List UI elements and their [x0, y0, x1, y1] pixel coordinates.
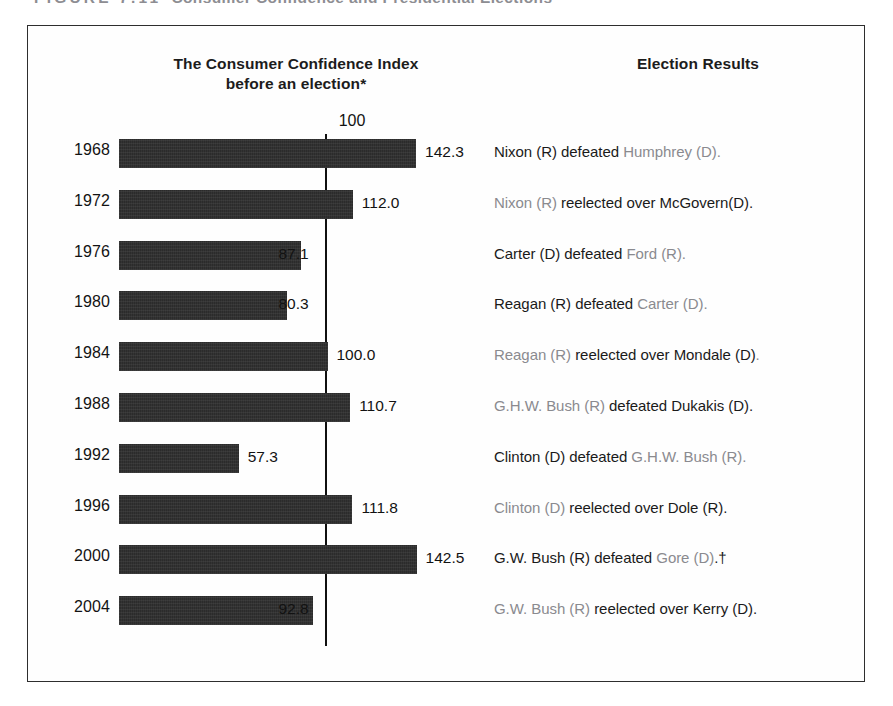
year-label: 1988 — [44, 395, 110, 413]
bar-value-label: 100.0 — [337, 346, 376, 364]
bar-value-label: 142.3 — [425, 143, 464, 161]
election-result-segment: Carter (D) defeated — [494, 245, 626, 262]
election-result-segment: G.H.W. Bush (R) — [494, 397, 609, 414]
election-result-text: Clinton (D) reelected over Dole (R). — [494, 498, 862, 517]
value-bar — [119, 139, 416, 168]
election-result-segment: .† — [714, 549, 726, 566]
value-bar — [119, 495, 352, 524]
year-label: 1972 — [44, 192, 110, 210]
chart-row: 1972112.0Nixon (R) reelected over McGove… — [28, 180, 866, 231]
election-result-segment: Gore (D) — [656, 549, 714, 566]
bar-value-label: 80.3 — [279, 295, 309, 313]
value-bar — [119, 444, 239, 473]
chart-row: 200492.8G.W. Bush (R) reelected over Ker… — [28, 586, 866, 637]
chart-row: 1984100.0Reagan (R) reelected over Monda… — [28, 332, 866, 383]
results-column-header: Election Results — [548, 54, 848, 74]
chart-row: 198080.3Reagan (R) defeated Carter (D). — [28, 281, 866, 332]
election-result-segment: G.W. Bush (R) defeated — [494, 549, 656, 566]
chart-column-header: The Consumer Confidence Index before an … — [131, 54, 461, 94]
value-bar — [119, 342, 328, 371]
chart-column-header-line2: before an election* — [131, 74, 461, 94]
election-result-text: Clinton (D) defeated G.H.W. Bush (R). — [494, 447, 862, 466]
election-result-segment: Reagan (R) defeated — [494, 295, 637, 312]
chart-row: 199257.3Clinton (D) defeated G.H.W. Bush… — [28, 434, 866, 485]
figure-frame: The Consumer Confidence Index before an … — [27, 25, 865, 682]
value-bar — [119, 291, 287, 320]
year-label: 1980 — [44, 293, 110, 311]
election-result-segment: reelected over Mondale (D) — [575, 346, 755, 363]
election-result-segment: G.W. Bush (R) — [494, 600, 594, 617]
value-bar — [119, 241, 301, 270]
year-label: 1968 — [44, 141, 110, 159]
chart-row: 1988110.7G.H.W. Bush (R) defeated Dukaki… — [28, 383, 866, 434]
figure-caption-title: Consumer Confidence and Presidential Ele… — [171, 0, 552, 6]
bar-value-label: 142.5 — [426, 549, 465, 567]
value-bar — [119, 393, 350, 422]
chart-row: 197687.1Carter (D) defeated Ford (R). — [28, 231, 866, 282]
bar-value-label: 92.8 — [279, 600, 309, 618]
baseline-value-label: 100 — [324, 112, 380, 130]
election-result-segment: Humphrey (D). — [623, 143, 721, 160]
election-result-segment: reelected over Kerry (D). — [594, 600, 757, 617]
election-result-segment: Nixon (R) — [494, 194, 561, 211]
election-result-text: G.W. Bush (R) reelected over Kerry (D). — [494, 599, 862, 618]
year-label: 1996 — [44, 497, 110, 515]
value-bar — [119, 545, 417, 574]
year-label: 2004 — [44, 598, 110, 616]
bar-value-label: 110.7 — [359, 397, 397, 415]
election-result-text: Nixon (R) defeated Humphrey (D). — [494, 142, 862, 161]
election-result-segment: Ford (R). — [626, 245, 686, 262]
election-result-segment: G.H.W. Bush (R). — [631, 448, 746, 465]
year-label: 1976 — [44, 243, 110, 261]
election-result-text: Reagan (R) reelected over Mondale (D). — [494, 345, 862, 364]
chart-row: 1968142.3Nixon (R) defeated Humphrey (D)… — [28, 129, 866, 180]
election-result-segment: reelected over Dole (R). — [569, 499, 727, 516]
election-result-segment: Clinton (D) — [494, 499, 569, 516]
year-label: 2000 — [44, 547, 110, 565]
year-label: 1992 — [44, 446, 110, 464]
chart-column-header-line1: The Consumer Confidence Index — [131, 54, 461, 74]
chart-row: 1996111.8Clinton (D) reelected over Dole… — [28, 485, 866, 536]
figure-caption: FIGURE 7.11Consumer Confidence and Presi… — [34, 0, 794, 7]
election-result-segment: Carter (D). — [637, 295, 707, 312]
election-result-segment: Reagan (R) — [494, 346, 575, 363]
election-result-text: Carter (D) defeated Ford (R). — [494, 244, 862, 263]
election-result-segment: Clinton (D) defeated — [494, 448, 631, 465]
election-result-segment: . — [756, 346, 760, 363]
bar-value-label: 111.8 — [361, 499, 398, 517]
chart-row: 2000142.5G.W. Bush (R) defeated Gore (D)… — [28, 535, 866, 586]
election-result-text: Nixon (R) reelected over McGovern(D). — [494, 193, 862, 212]
figure-caption-number: FIGURE 7.11 — [34, 0, 161, 6]
election-result-text: G.H.W. Bush (R) defeated Dukakis (D). — [494, 396, 862, 415]
year-label: 1984 — [44, 344, 110, 362]
election-result-text: G.W. Bush (R) defeated Gore (D).† — [494, 548, 862, 567]
bar-value-label: 57.3 — [248, 448, 278, 466]
election-result-text: Reagan (R) defeated Carter (D). — [494, 294, 862, 313]
bar-value-label: 87.1 — [279, 245, 309, 263]
election-result-segment: Nixon (R) defeated — [494, 143, 623, 160]
bar-value-label: 112.0 — [362, 194, 400, 212]
election-result-segment: reelected over McGovern(D). — [561, 194, 753, 211]
value-bar — [119, 190, 353, 219]
election-result-segment: defeated Dukakis (D). — [609, 397, 753, 414]
